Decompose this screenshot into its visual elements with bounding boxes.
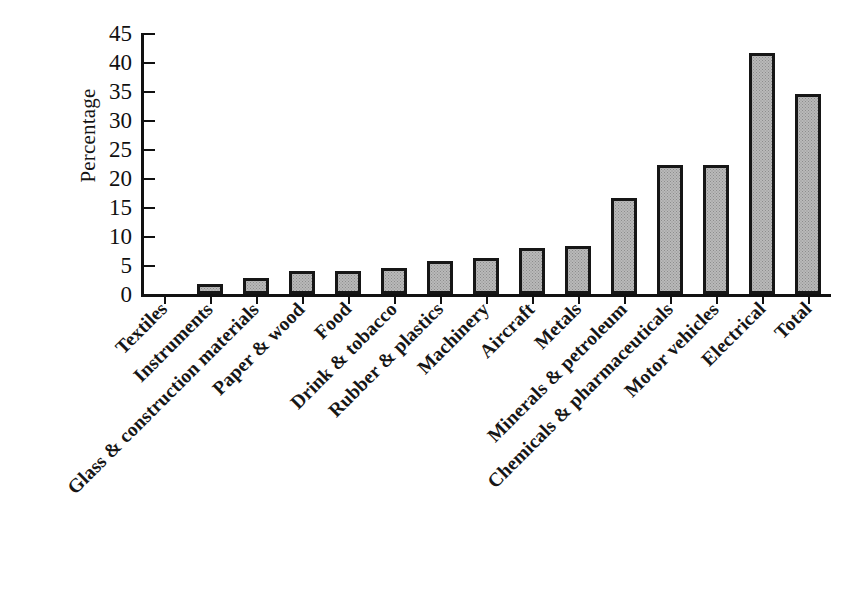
x-axis-tick-mark xyxy=(394,297,396,304)
y-axis-tick-label: 25 xyxy=(86,138,132,161)
bar xyxy=(335,271,361,294)
y-axis-tick-label: 30 xyxy=(86,109,132,132)
bar xyxy=(749,53,775,294)
y-axis-tick-label: 45 xyxy=(86,22,132,45)
x-axis-tick-mark xyxy=(256,297,258,304)
y-axis-tick-label: 40 xyxy=(86,51,132,74)
y-axis-tick-label: 5 xyxy=(86,254,132,277)
x-axis-tick-mark xyxy=(762,297,764,304)
x-axis-tick-mark xyxy=(716,297,718,304)
x-axis-tick-mark xyxy=(532,297,534,304)
x-axis-tick-mark xyxy=(302,297,304,304)
bar xyxy=(289,271,315,294)
bar xyxy=(657,165,683,294)
y-axis-tick-labels: 051015202530354045 xyxy=(84,0,132,589)
bar xyxy=(611,198,637,294)
x-axis-tick-mark xyxy=(578,297,580,304)
bar xyxy=(381,268,407,294)
bar-series xyxy=(141,33,831,297)
x-axis-tick-mark xyxy=(486,297,488,304)
y-axis-tick-label: 20 xyxy=(86,167,132,190)
x-axis-tick-mark xyxy=(164,297,166,304)
x-axis-tick-mark xyxy=(808,297,810,304)
bar xyxy=(427,261,453,294)
x-axis-tick-mark xyxy=(348,297,350,304)
x-axis-tick-mark xyxy=(210,297,212,304)
bar xyxy=(197,284,223,294)
bar xyxy=(565,246,591,294)
y-axis-tick-label: 35 xyxy=(86,80,132,103)
bar xyxy=(243,278,269,294)
bar xyxy=(519,248,545,294)
y-axis-tick-label: 10 xyxy=(86,225,132,248)
bar xyxy=(473,258,499,294)
bar xyxy=(795,94,821,294)
x-axis-tick-mark xyxy=(624,297,626,304)
bar xyxy=(703,165,729,294)
x-axis-tick-mark xyxy=(670,297,672,304)
bar-chart: Percentage 051015202530354045 TextilesIn… xyxy=(0,0,842,589)
x-axis-tick-mark xyxy=(440,297,442,304)
x-axis-category-label: Total xyxy=(770,298,816,344)
y-axis-tick-label: 15 xyxy=(86,196,132,219)
plot-area xyxy=(141,33,831,296)
y-axis-tick-label: 0 xyxy=(86,283,132,306)
